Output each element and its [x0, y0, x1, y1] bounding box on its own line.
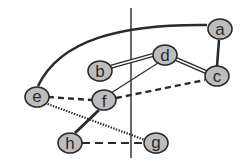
- node-label: h: [65, 134, 74, 153]
- node-b: b: [88, 61, 112, 81]
- edge-f-c: [116, 80, 205, 98]
- graph-diagram: a b c d e f g h: [0, 0, 249, 165]
- node-g: g: [144, 133, 168, 154]
- node-d: d: [153, 45, 177, 65]
- node-label: d: [160, 46, 169, 65]
- edge-e-a: [38, 25, 207, 86]
- node-c: c: [205, 66, 229, 86]
- edge-d-c: [176, 59, 206, 72]
- edge-e-f: [48, 97, 92, 100]
- edge-d-f: [111, 63, 158, 93]
- node-label: g: [151, 133, 160, 152]
- edge-a-c: [217, 40, 219, 66]
- node-h: h: [58, 133, 82, 153]
- node-label: f: [102, 92, 107, 111]
- edge-e-g: [45, 103, 145, 140]
- node-label: c: [213, 67, 222, 86]
- node-label: e: [32, 87, 41, 106]
- node-label: a: [215, 20, 225, 39]
- node-f: f: [92, 90, 116, 111]
- node-e: e: [25, 87, 49, 108]
- node-label: b: [95, 62, 104, 81]
- node-a: a: [208, 19, 232, 39]
